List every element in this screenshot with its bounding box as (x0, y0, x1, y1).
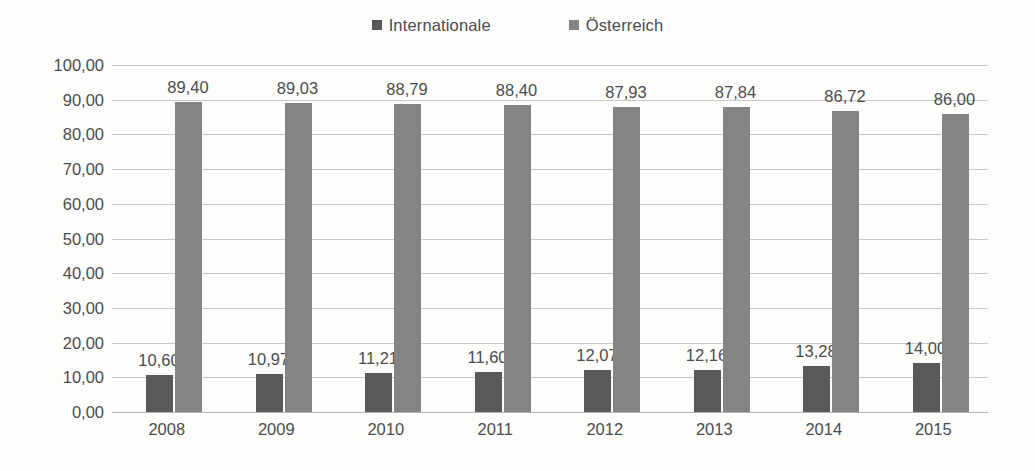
legend-item-oesterreich: Österreich (569, 16, 664, 35)
bar-value-label: 86,72 (824, 87, 865, 106)
bar-internationale-2010 (365, 373, 392, 412)
bar-value-label: 10,60 (138, 351, 179, 370)
bar-group: 10,6089,40 (112, 65, 222, 412)
x-axis-tick-label: 2009 (258, 420, 295, 439)
bar-österreich-2014 (832, 111, 859, 412)
bar-internationale-2014 (803, 366, 830, 412)
square-swatch-icon (372, 20, 382, 30)
x-axis-tick-label: 2013 (696, 420, 733, 439)
x-axis-tick-label: 2011 (478, 420, 513, 439)
x-axis-tick-label: 2015 (915, 420, 952, 439)
bar-österreich-2008 (175, 102, 202, 412)
bar-value-label: 12,16 (686, 346, 727, 365)
square-swatch-icon (569, 20, 579, 30)
bar-value-label: 88,79 (386, 80, 427, 99)
bar-value-label: 86,00 (934, 90, 975, 109)
bar-value-label: 11,21 (358, 349, 398, 368)
y-axis-tick-label: 80,00 (8, 125, 104, 144)
chart-legend: Internationale Österreich (0, 12, 1035, 38)
x-axis-tick-label: 2010 (367, 420, 404, 439)
bar-value-label: 12,07 (576, 346, 617, 365)
x-axis: 20082009201020112012201320142015 (112, 420, 988, 450)
y-axis-tick-label: 60,00 (8, 194, 104, 213)
bar-group: 11,2188,79 (331, 65, 441, 412)
y-axis-tick-label: 90,00 (8, 90, 104, 109)
bar-internationale-2009 (256, 374, 283, 412)
legend-label-oesterreich: Österreich (586, 16, 664, 35)
x-axis-tick-label: 2008 (148, 420, 185, 439)
y-axis-tick-label: 30,00 (8, 298, 104, 317)
bar-group: 10,9789,03 (222, 65, 332, 412)
bar-österreich-2012 (613, 107, 640, 412)
bar-value-label: 87,93 (605, 83, 646, 102)
bar-internationale-2008 (146, 375, 173, 412)
bar-value-label: 88,40 (496, 81, 537, 100)
y-axis-tick-label: 100,00 (8, 56, 104, 75)
bar-value-label: 14,00 (905, 339, 946, 358)
bar-value-label: 89,03 (277, 79, 318, 98)
bar-group: 12,0787,93 (550, 65, 660, 412)
bar-value-label: 87,84 (715, 83, 756, 102)
y-axis-tick-label: 70,00 (8, 160, 104, 179)
bar-internationale-2012 (584, 370, 611, 412)
y-axis-tick-label: 20,00 (8, 333, 104, 352)
bar-group: 11,6088,40 (441, 65, 551, 412)
y-axis-tick-label: 50,00 (8, 229, 104, 248)
bar-value-label: 13,28 (795, 342, 836, 361)
bar-value-label: 10,97 (248, 350, 289, 369)
bar-chart: Internationale Österreich 0,0010,0020,00… (0, 0, 1035, 471)
y-axis-tick-label: 0,00 (8, 403, 104, 422)
x-axis-tick-label: 2014 (805, 420, 842, 439)
x-axis-tick-label: 2012 (586, 420, 623, 439)
bar-value-label: 11,60 (467, 348, 507, 367)
bar-österreich-2009 (285, 103, 312, 412)
y-axis-tick-label: 10,00 (8, 368, 104, 387)
bar-österreich-2011 (504, 105, 531, 412)
bar-group: 13,2886,72 (769, 65, 879, 412)
bar-group: 12,1687,84 (660, 65, 770, 412)
legend-label-internationale: Internationale (389, 16, 491, 35)
legend-item-internationale: Internationale (372, 16, 491, 35)
bar-group: 14,0086,00 (879, 65, 989, 412)
y-axis-tick-label: 40,00 (8, 264, 104, 283)
plot-area: 10,6089,4010,9789,0311,2188,7911,6088,40… (112, 65, 988, 412)
gridline (112, 412, 988, 413)
bar-value-label: 89,40 (167, 78, 208, 97)
y-axis: 0,0010,0020,0030,0040,0050,0060,0070,008… (0, 65, 104, 412)
bar-internationale-2013 (694, 370, 721, 412)
bar-österreich-2010 (394, 104, 421, 412)
bar-österreich-2013 (723, 107, 750, 412)
bar-internationale-2011 (475, 372, 502, 412)
bar-österreich-2015 (942, 114, 969, 412)
bar-internationale-2015 (913, 363, 940, 412)
